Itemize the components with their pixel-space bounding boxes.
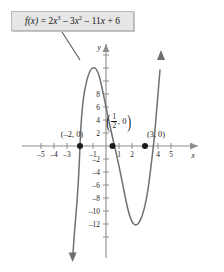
y-axis-arrowhead [103,44,110,52]
root-dot-half [110,143,116,149]
y-tick-label-4: 4 [96,116,100,125]
figure-polynomial-graph: –5 –4 –3 –1 1 2 4 5 2 4 6 8 –2 –4 –6 –8 … [0,0,224,272]
root-label-minus2: (–2, 0) [61,130,84,139]
graph-canvas: –5 –4 –3 –1 1 2 4 5 2 4 6 8 –2 –4 –6 –8 … [0,0,224,272]
formula-equals: = [41,16,46,26]
root-label-3: (3, 0) [147,130,165,139]
x-tick-label-5: 5 [169,150,173,159]
y-axis [103,44,110,258]
fraction-one-half: 1 2 [111,113,117,130]
root-label-half: ( 1 2 , 0 ) [105,113,133,130]
root-dot-3 [142,143,148,149]
formula-term2-exp: 2 [79,15,82,21]
y-tick-label--2: –2 [92,155,101,164]
formula-term3-var: x [101,16,105,26]
fraction-denominator: 2 [111,122,117,129]
formula-op1: – [63,16,68,26]
fraction-comma-zero: , 0 [118,116,127,126]
formula-callout-box: f(x) = 2x3 – 3x2 – 11x + 6 [11,11,134,31]
y-tick-label--10: –10 [88,207,100,216]
y-tick-labels: 2 4 6 8 –2 –4 –6 –8 –10 –12 [88,90,100,229]
y-tick-label--6: –6 [92,181,101,190]
y-tick-label-2: 2 [96,129,100,138]
x-axis-label: x [190,151,195,160]
y-tick-label-6: 6 [96,103,100,112]
x-tick-label--4: –4 [49,150,58,159]
y-tick-label--12: –12 [88,220,100,229]
root-dot-minus2 [77,143,83,149]
x-tick-label-4: 4 [156,150,160,159]
formula-fx: f(x) [25,16,38,26]
fraction-numerator: 1 [111,113,117,120]
x-axis-arrowhead [190,143,198,150]
x-tick-label-2: 2 [130,150,134,159]
y-tick-label--4: –4 [92,168,101,177]
formula-term1-exp: 3 [57,15,60,21]
curve-arrowhead-left [69,253,77,263]
x-tick-label--5: –5 [36,150,45,159]
formula-text: f(x) = 2x3 – 3x2 – 11x + 6 [25,16,120,26]
curve-arrowhead-right [157,50,165,60]
formula-op2: – [84,16,89,26]
function-curve [69,50,165,262]
formula-term3: 11 [92,16,101,26]
paren-close: ) [128,115,132,129]
paren-open: ( [106,115,110,129]
formula-term4: 6 [115,16,120,26]
x-tick-label--3: –3 [62,150,71,159]
y-axis-label: y [96,43,101,52]
formula-op3: + [108,16,113,26]
y-tick-label-8: 8 [96,90,100,99]
y-tick-label--8: –8 [92,194,101,203]
callout-leader-line [62,32,80,60]
